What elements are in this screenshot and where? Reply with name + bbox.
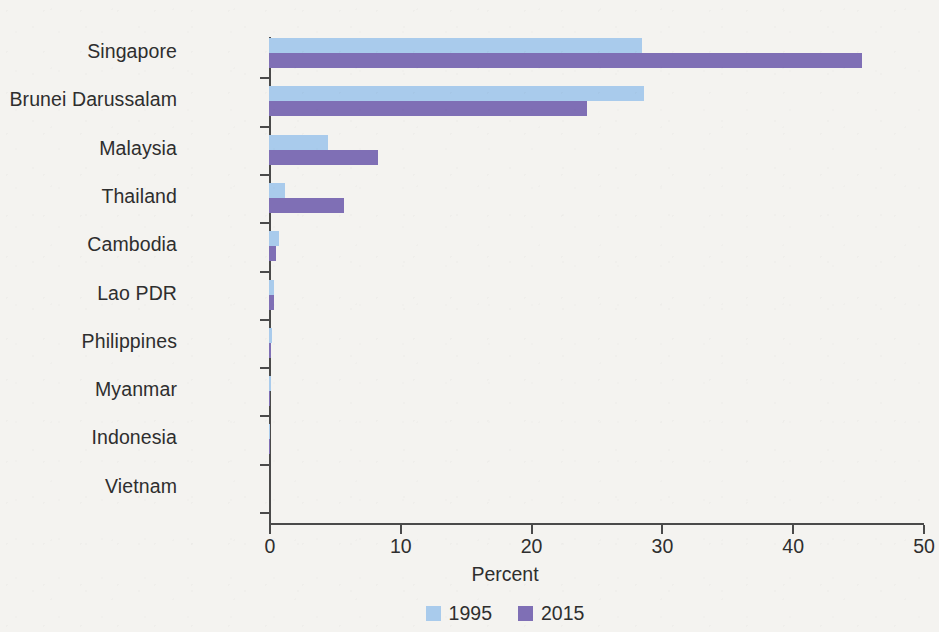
category-label-thailand: Thailand [101, 185, 177, 208]
x-axis-tick-label: 20 [521, 535, 543, 558]
bar-1995 [269, 135, 328, 150]
category-label-cambodia: Cambodia [87, 233, 177, 256]
x-axis-tick-label: 50 [913, 535, 935, 558]
y-axis-tick [260, 319, 269, 321]
legend-swatch-2015 [518, 606, 533, 621]
y-axis-tick [260, 512, 269, 514]
bar-2015 [269, 198, 344, 213]
y-axis-tick [260, 174, 269, 176]
y-axis-tick [260, 77, 269, 79]
y-axis-tick [260, 271, 269, 273]
x-axis-tick-label: 0 [265, 535, 276, 558]
bar-1995 [269, 376, 271, 391]
horizontal-bar-chart: SingaporeBrunei DarussalamMalaysiaThaila… [40, 16, 890, 616]
x-axis-tick-label: 40 [782, 535, 804, 558]
bar-2015 [269, 246, 276, 261]
bar-2015 [269, 343, 271, 358]
x-axis-title: Percent [40, 563, 939, 586]
y-axis-tick [260, 222, 269, 224]
bar-1995 [269, 280, 274, 295]
category-label-myanmar: Myanmar [95, 378, 177, 401]
y-axis-tick [260, 126, 269, 128]
legend-label-1995: 1995 [449, 604, 492, 624]
category-label-vietnam: Vietnam [105, 475, 177, 498]
bar-1995 [269, 231, 279, 246]
legend-item-1995: 1995 [426, 604, 492, 624]
category-label-indonesia: Indonesia [92, 426, 177, 449]
x-axis-tick [531, 525, 533, 534]
x-axis-tick-label: 10 [390, 535, 412, 558]
chart-legend: 1995 2015 [40, 604, 939, 624]
bar-2015 [269, 150, 378, 165]
x-axis-tick [792, 525, 794, 534]
bar-1995 [269, 183, 285, 198]
category-label-philippines: Philippines [82, 330, 177, 353]
y-axis-tick [260, 415, 269, 417]
legend-swatch-1995 [426, 606, 441, 621]
category-label-brunei-darussalam: Brunei Darussalam [9, 88, 177, 111]
bar-1995 [269, 38, 642, 53]
bar-2015 [269, 295, 274, 310]
x-axis-tick-label: 30 [652, 535, 674, 558]
bar-1995 [269, 86, 644, 101]
y-axis-tick [260, 367, 269, 369]
bar-1995 [269, 328, 272, 343]
bar-2015 [269, 391, 270, 406]
bar-1995 [269, 424, 270, 439]
plot-area [269, 38, 923, 524]
x-axis-tick [661, 525, 663, 534]
x-axis-tick [269, 525, 271, 534]
bar-2015 [269, 101, 587, 116]
x-axis-tick [400, 525, 402, 534]
category-label-malaysia: Malaysia [99, 137, 177, 160]
legend-label-2015: 2015 [541, 604, 584, 624]
y-axis-tick [260, 464, 269, 466]
legend-item-2015: 2015 [518, 604, 584, 624]
x-axis-tick [923, 525, 925, 534]
bar-2015 [269, 53, 862, 68]
bar-2015 [269, 439, 270, 454]
category-label-lao-pdr: Lao PDR [97, 282, 177, 305]
category-label-singapore: Singapore [87, 40, 177, 63]
